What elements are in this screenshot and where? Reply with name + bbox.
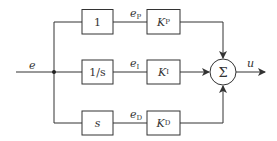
block-d-label: s	[82, 111, 113, 135]
junction-dot	[52, 70, 56, 74]
gain-i-label: KI	[147, 60, 180, 84]
gain-d-label: KD	[147, 111, 180, 135]
output-label: u	[247, 58, 254, 69]
gain-p-label: KP	[147, 10, 180, 34]
block-p-label: 1	[82, 10, 113, 34]
sigma-symbol: Σ	[210, 59, 236, 85]
signal-p-label: eP	[130, 8, 141, 21]
block-i-label: 1/s	[82, 60, 113, 84]
signal-i-label: eI	[130, 58, 139, 71]
input-label: e	[29, 60, 36, 71]
signal-d-label: eD	[130, 109, 142, 122]
